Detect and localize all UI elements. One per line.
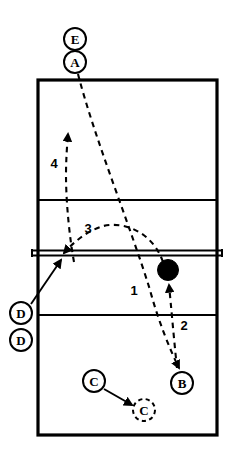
court-group bbox=[31, 80, 223, 435]
player-d-1-label: D bbox=[16, 306, 25, 321]
player-b[interactable]: B bbox=[171, 372, 193, 394]
player-c-start[interactable]: C bbox=[83, 370, 105, 392]
player-a-label: A bbox=[70, 55, 80, 70]
player-e-label: E bbox=[71, 32, 80, 47]
player-d-1[interactable]: D bbox=[10, 302, 32, 324]
ball-group bbox=[158, 260, 179, 281]
player-a[interactable]: A bbox=[64, 51, 86, 73]
player-c-start-label: C bbox=[89, 374, 98, 389]
sequence-label-4: 4 bbox=[50, 156, 58, 171]
sequence-label-3: 3 bbox=[84, 221, 91, 236]
court-diagram-canvas: E A D D C C bbox=[0, 0, 242, 463]
player-e[interactable]: E bbox=[64, 28, 86, 50]
sequence-label-2: 2 bbox=[180, 318, 187, 333]
volleyball-diagram: E A D D C C bbox=[0, 0, 242, 463]
ball-icon bbox=[158, 260, 179, 281]
player-c-target-label: C bbox=[139, 403, 148, 418]
player-c-target[interactable]: C bbox=[133, 399, 155, 421]
player-d-2[interactable]: D bbox=[10, 329, 32, 351]
sequence-label-1: 1 bbox=[130, 283, 137, 298]
player-b-label: B bbox=[178, 376, 187, 391]
player-d-2-label: D bbox=[16, 333, 25, 348]
